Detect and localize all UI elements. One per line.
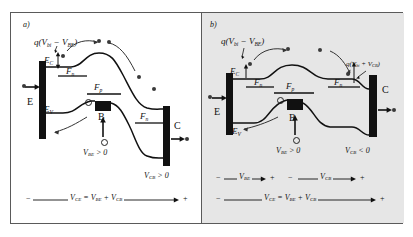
terminal-b-b: B [289, 113, 296, 123]
bias-vcb-a: VCB > 0 [144, 172, 169, 181]
hole-circle [277, 97, 284, 104]
electron-path-arrow-1 [254, 49, 286, 60]
label-fp-b: Fp [286, 82, 294, 92]
electron-dot [61, 54, 65, 58]
electron-dot [137, 75, 141, 79]
electron-path-arrow-2 [109, 43, 135, 71]
electron-dot [286, 47, 290, 51]
label-fn-collector-b: Fn [334, 78, 342, 88]
collector-contact-bar [163, 106, 170, 166]
vcb-span-label: VCB [318, 173, 333, 182]
emitter-contact-bar [39, 61, 46, 139]
label-fn-b: Fn [254, 78, 262, 88]
electron-dot [22, 84, 26, 88]
panel-a: a) q(Vbi − VBE) [11, 13, 201, 223]
vbe-span-plus: + [270, 174, 275, 182]
collector-contact-bar [369, 75, 377, 137]
terminal-e-b: E [214, 107, 220, 117]
terminal-c-a: C [174, 121, 181, 131]
hole-path-arrow [55, 117, 87, 132]
bias-vbe-a: VBE > 0 [83, 149, 107, 158]
axis-minus-a: − [26, 195, 31, 203]
label-fn-a: Fn [66, 67, 74, 77]
electron-path-arrow-1 [67, 41, 97, 51]
vbe-span-minus: − [216, 174, 221, 182]
electron-dot [346, 72, 350, 76]
electron-dot [318, 48, 322, 52]
electron-path-arrow-2 [330, 51, 350, 73]
hole-circle [85, 99, 92, 106]
vbe-span-label: VBE [237, 173, 252, 182]
terminal-e-a: E [27, 97, 33, 107]
label-fn-collector-a: Fn [140, 112, 148, 122]
axis-minus-b: − [216, 195, 221, 203]
electron-dot [208, 95, 212, 99]
label-ec-a: EC [44, 56, 53, 66]
conduction-band-curve [46, 53, 163, 109]
terminal-c-b: C [382, 85, 389, 95]
label-fp-a: Fp [94, 83, 102, 93]
axis-equation-b: VCE = VBE + VCB [262, 194, 318, 203]
panel-b: b) q(Vbi − VBE) q(Vbi + VCB) [201, 13, 404, 223]
hole-circle [101, 139, 108, 146]
base-contact-block [287, 99, 303, 110]
bias-vbe-b: VBE > 0 [276, 147, 300, 156]
base-contact-block [95, 101, 111, 111]
label-ec-b: EC [230, 67, 239, 77]
electron-dot [107, 40, 111, 44]
axis-plus-a: + [183, 195, 188, 203]
vcb-span-plus: + [360, 174, 365, 182]
axis-plus-b: + [380, 195, 385, 203]
axis-equation-a: VCE = VBE + VCB [68, 194, 124, 203]
electron-dot [185, 137, 189, 141]
vcb-span-minus: − [288, 174, 293, 182]
label-ev-a: EV [44, 105, 53, 115]
figure-root: a) q(Vbi − VBE) [0, 0, 413, 237]
figure-frame: a) q(Vbi − VBE) [10, 12, 403, 224]
electron-dot [97, 39, 101, 43]
terminal-b-a: B [98, 112, 105, 122]
hole-circle [293, 137, 300, 144]
electron-dot [248, 62, 252, 66]
electron-dot [392, 108, 396, 112]
electron-dot [152, 87, 156, 91]
label-ev-b: EV [232, 127, 241, 137]
bias-vcb-b: VCB < 0 [345, 147, 370, 156]
